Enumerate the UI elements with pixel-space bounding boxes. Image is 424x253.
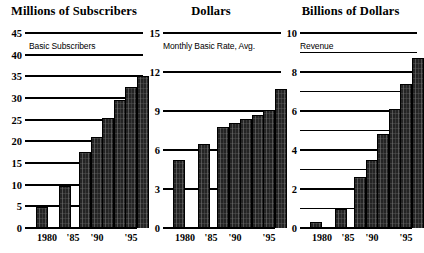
bar [173,160,185,228]
bar [91,137,103,228]
chart-panel-revenue: Billions of Dollars Revenue 02468101980'… [280,0,417,253]
y-axis-tick-label: 15 [150,28,161,39]
bar [217,127,229,228]
y-axis-tick-label: 0 [17,223,22,234]
bar [263,110,275,228]
bar [240,119,252,228]
bar [377,134,389,228]
chart-panel-dollars: Dollars Monthly Basic Rate, Avg. 0369121… [142,0,280,253]
gridline-major [25,54,143,56]
gridline-minor [300,52,417,54]
x-axis-baseline [25,227,137,229]
bar [125,87,137,228]
x-axis-tick-label: '85 [342,232,355,243]
bar [59,186,71,228]
y-axis-tick-label: 8 [292,67,297,78]
x-axis-baseline [163,227,275,229]
x-axis-tick-label: '95 [263,232,276,243]
bar [102,118,114,229]
x-axis-tick-label: '95 [125,232,138,243]
bar [389,109,401,228]
x-axis-baseline [300,227,412,229]
series-label-revenue: Revenue [300,41,333,51]
x-axis-tick-label: 1980 [312,232,332,243]
y-axis-tick-label: 20 [12,136,23,147]
series-label-monthly-basic-rate: Monthly Basic Rate, Avg. [163,41,255,51]
y-axis-tick-label: 10 [287,28,298,39]
y-axis-tick-label: 0 [155,223,160,234]
gridline-major [25,75,143,77]
gridline-major [300,71,417,73]
x-axis-tick-label: 1980 [37,232,57,243]
plot-area-dollars: Monthly Basic Rate, Avg. 036912151980'85… [142,0,280,253]
bar [412,58,424,228]
bar [335,209,347,229]
gridline-major [300,32,417,34]
y-axis-tick-label: 40 [12,49,23,60]
bar [36,207,48,228]
bar [229,123,241,228]
x-axis-tick-label: '90 [229,232,242,243]
gridline-major [163,71,281,73]
y-axis-tick-label: 0 [292,223,297,234]
bar [252,115,264,228]
gridline-major [163,32,281,34]
y-axis-tick-label: 6 [155,145,160,156]
y-axis-tick-label: 4 [292,145,297,156]
y-axis-tick-label: 35 [12,71,23,82]
gridline-major [25,32,143,34]
y-axis-tick-label: 3 [155,184,160,195]
plot-area-subscribers: Basic Subscribers 0510152025303540451980… [0,0,142,253]
bar [114,100,126,228]
series-label-basic-subscribers: Basic Subscribers [29,41,95,51]
y-axis-tick-label: 12 [150,67,161,78]
x-axis-tick-label: '90 [91,232,104,243]
y-axis-tick-label: 2 [292,184,297,195]
y-axis-tick-label: 15 [12,158,23,169]
x-axis-tick-label: 1980 [175,232,195,243]
y-axis-tick-label: 9 [155,106,160,117]
x-axis-tick-label: '95 [400,232,413,243]
y-axis-tick-label: 10 [12,179,23,190]
bar [198,144,210,229]
bar [400,84,412,228]
y-axis-tick-label: 25 [12,114,23,125]
x-axis-tick-label: '90 [366,232,379,243]
x-axis-tick-label: '85 [67,232,80,243]
y-axis-tick-label: 6 [292,106,297,117]
y-axis-tick-label: 45 [12,28,23,39]
bar [79,152,91,228]
plot-area-revenue: Revenue 02468101980'85'90'95 [280,0,417,253]
y-axis-tick-label: 30 [12,93,23,104]
y-axis-tick-label: 5 [17,201,22,212]
bar [366,160,378,228]
bar [354,177,366,228]
x-axis-tick-label: '85 [205,232,218,243]
chart-panel-subscribers: Millions of Subscribers Basic Subscriber… [0,0,142,253]
